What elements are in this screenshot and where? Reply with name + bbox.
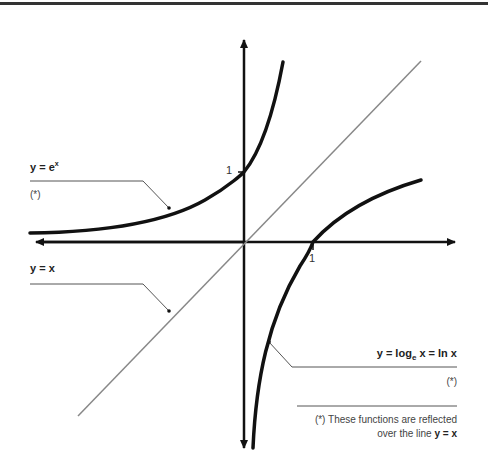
exp-leader bbox=[30, 181, 169, 208]
x-tick-label: 1 bbox=[309, 252, 315, 264]
ln-curve bbox=[253, 180, 421, 448]
y-tick-label: 1 bbox=[226, 164, 232, 176]
ln-label: y = loge x = ln x bbox=[377, 347, 457, 362]
ln-note: (*) bbox=[446, 376, 457, 387]
identity-line bbox=[78, 61, 421, 416]
function-plot bbox=[0, 0, 488, 476]
exp-note: (*) bbox=[30, 189, 41, 200]
identity-label: y = x bbox=[30, 262, 55, 274]
identity-leader bbox=[30, 284, 169, 311]
footnote-line1: (*) These functions are reflected bbox=[315, 414, 457, 425]
exp-label: y = ex bbox=[30, 160, 59, 173]
footnote-line2: over the line y = x bbox=[377, 428, 457, 439]
